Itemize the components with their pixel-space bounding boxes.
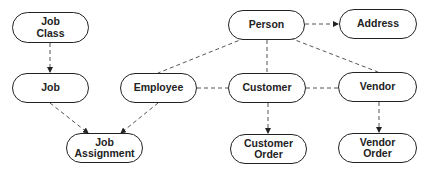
node-job: Job <box>12 73 89 103</box>
node-customer-order: Customer Order <box>230 134 307 164</box>
edge-person-employee <box>158 38 245 73</box>
node-address: Address <box>339 9 417 39</box>
edge-employee-jobassignment <box>121 103 158 133</box>
node-job-class: Job Class <box>12 12 89 43</box>
node-person: Person <box>228 10 305 40</box>
edge-person-vendor <box>290 38 378 72</box>
node-employee: Employee <box>120 73 197 103</box>
node-vendor-order: Vendor Order <box>338 133 417 163</box>
node-job-assignment: Job Assignment <box>66 133 143 163</box>
node-customer: Customer <box>228 73 306 103</box>
edge-job-jobassignment <box>50 103 88 133</box>
node-vendor: Vendor <box>338 72 417 102</box>
